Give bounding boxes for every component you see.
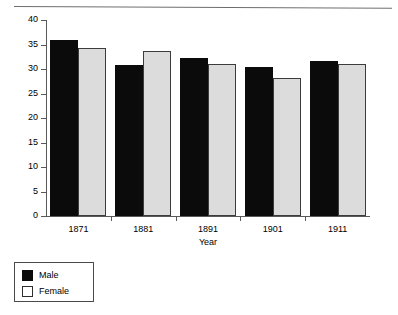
legend-swatch-female-icon [22, 286, 33, 297]
y-tick-label: 40 [14, 14, 38, 25]
bar-female-1871 [78, 48, 106, 216]
x-tick-label: 1901 [263, 224, 283, 235]
y-tick-label: 25 [14, 88, 38, 99]
y-tick-label: 5 [14, 186, 38, 197]
y-tick-label: 0 [14, 210, 38, 221]
top-divider-rule [14, 6, 392, 9]
y-tick-label: 10 [14, 161, 38, 172]
x-tick-label: 1891 [198, 224, 218, 235]
y-tick: 20 [41, 118, 47, 119]
figure: Per cent of all admissions 0510152025303… [0, 0, 398, 315]
x-tick [305, 216, 306, 221]
y-tick: 35 [41, 45, 47, 46]
y-tick: 0 [41, 216, 47, 217]
y-tick-label: 15 [14, 137, 38, 148]
y-tick-label: 20 [14, 112, 38, 123]
legend-label-female: Female [39, 286, 69, 297]
x-tick-label: 1911 [328, 224, 347, 235]
bar-male-1911 [310, 61, 338, 216]
legend-label-male: Male [39, 270, 59, 281]
y-tick: 25 [41, 94, 47, 95]
x-tick-label: 1871 [68, 224, 88, 235]
bar-male-1901 [245, 67, 273, 216]
x-tick-label: 1881 [133, 224, 153, 235]
y-tick: 5 [41, 192, 47, 193]
bar-male-1881 [115, 65, 143, 216]
x-tick [240, 216, 241, 221]
y-tick-label: 30 [14, 63, 38, 74]
bar-male-1891 [180, 58, 208, 216]
bar-female-1881 [143, 51, 171, 216]
legend: Male Female [14, 262, 94, 302]
plot-area: 0510152025303540 18711881189119011911 [46, 20, 370, 216]
bar-female-1891 [208, 64, 236, 216]
y-tick-label: 35 [14, 39, 38, 50]
x-tick [176, 216, 177, 221]
bar-male-1871 [50, 40, 78, 216]
bar-female-1901 [273, 78, 301, 216]
x-tick [111, 216, 112, 221]
y-tick: 10 [41, 167, 47, 168]
legend-item-female: Female [22, 284, 69, 298]
y-tick: 40 [41, 20, 47, 21]
x-axis-title: Year [46, 236, 370, 248]
legend-item-male: Male [22, 268, 59, 282]
legend-swatch-male-icon [22, 270, 33, 281]
bar-female-1911 [338, 64, 366, 216]
x-axis-line [46, 216, 370, 217]
y-tick: 30 [41, 69, 47, 70]
y-tick: 15 [41, 143, 47, 144]
